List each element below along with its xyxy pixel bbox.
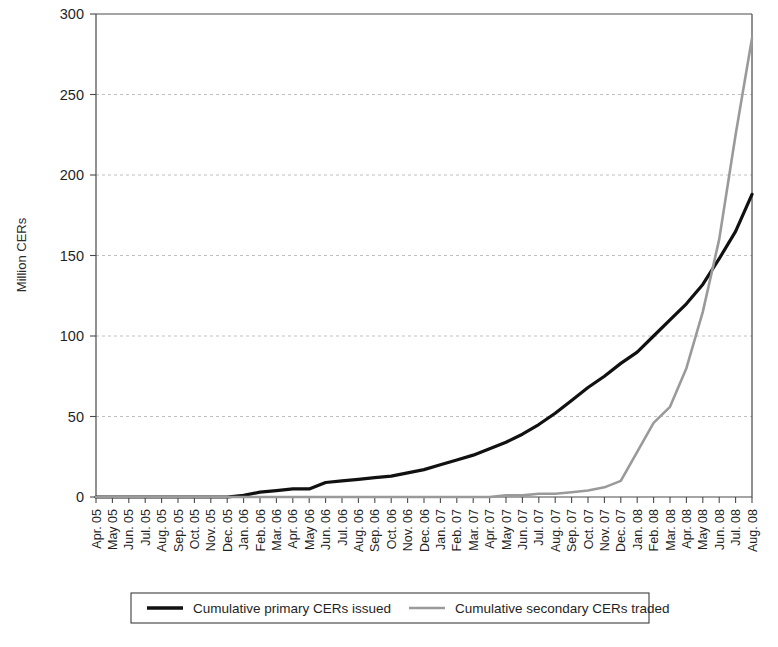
x-tick-label: Nov. 06 (401, 509, 415, 551)
series-line-primary-cers-issued (96, 194, 752, 497)
x-tick-label: Dec. 06 (418, 509, 432, 552)
x-tick-label: Mar. 07 (467, 509, 481, 551)
y-tick-label-300: 300 (60, 6, 84, 22)
x-tick-label: Apr. 05 (90, 509, 104, 549)
x-tick-label: Sep. 05 (172, 509, 186, 552)
x-tick-label: Jul. 08 (729, 509, 743, 546)
x-tick-label: Oct. 07 (582, 509, 596, 549)
x-tick-label: Oct. 06 (385, 509, 399, 549)
x-tick-label: Nov. 07 (598, 509, 612, 551)
cumulative-cers-line-chart: 050100150200250300 Apr. 05May 05Jun. 05J… (0, 0, 778, 647)
x-tick-label: Jul. 07 (532, 509, 546, 546)
x-tick-label: Apr. 06 (286, 509, 300, 549)
x-tick-label: May 05 (106, 509, 120, 550)
y-tick-label-100: 100 (60, 328, 84, 344)
data-series (96, 38, 752, 497)
series-line-secondary-cers-traded (96, 38, 752, 497)
x-tick-label: Jun. 05 (122, 509, 136, 550)
x-tick-label: Sep. 07 (565, 509, 579, 552)
x-tick-label: Feb. 07 (450, 509, 464, 551)
x-tick-label: Mar. 08 (664, 509, 678, 551)
y-tick-label-250: 250 (60, 87, 84, 103)
x-tick-label: Jun. 07 (516, 509, 530, 550)
x-tick-label: Aug. 06 (352, 509, 366, 552)
chart-container: 050100150200250300 Apr. 05May 05Jun. 05J… (0, 0, 778, 647)
y-axis-ticks: 050100150200250300 (60, 6, 96, 505)
x-tick-label: Feb. 06 (254, 509, 268, 551)
x-tick-label: Mar. 06 (270, 509, 284, 551)
x-tick-label: Apr. 08 (680, 509, 694, 549)
x-tick-label: Jan. 08 (631, 509, 645, 550)
x-tick-label: Aug. 07 (549, 509, 563, 552)
y-tick-label-0: 0 (76, 489, 84, 505)
legend-label-0: Cumulative primary CERs issued (193, 601, 391, 616)
x-tick-label: Jun. 08 (713, 509, 727, 550)
x-tick-label: Feb. 08 (647, 509, 661, 551)
x-tick-label: Jan. 07 (434, 509, 448, 550)
y-tick-label-50: 50 (68, 409, 84, 425)
x-tick-label: Oct. 05 (188, 509, 202, 549)
x-tick-label: Apr. 07 (483, 509, 497, 549)
y-tick-label-150: 150 (60, 248, 84, 264)
x-tick-label: May 07 (500, 509, 514, 550)
x-tick-label: Jan. 06 (237, 509, 251, 550)
x-tick-label: Jul. 05 (139, 509, 153, 546)
x-tick-label: May 06 (303, 509, 317, 550)
x-tick-label: Aug. 08 (746, 509, 760, 552)
gridlines (96, 95, 752, 417)
legend-label-1: Cumulative secondary CERs traded (455, 601, 670, 616)
y-tick-label-200: 200 (60, 167, 84, 183)
x-tick-label: Sep. 06 (368, 509, 382, 552)
x-axis-ticks: Apr. 05May 05Jun. 05Jul. 05Aug. 05Sep. 0… (90, 497, 760, 552)
y-axis-label: Million CERs (14, 217, 29, 292)
x-tick-label: Aug. 05 (155, 509, 169, 552)
x-tick-label: Nov. 05 (204, 509, 218, 551)
x-tick-label: Jun. 06 (319, 509, 333, 550)
x-tick-label: Dec. 05 (221, 509, 235, 552)
x-tick-label: Jul. 06 (336, 509, 350, 546)
x-tick-label: May 08 (696, 509, 710, 550)
x-tick-label: Dec. 07 (614, 509, 628, 552)
chart-legend: Cumulative primary CERs issuedCumulative… (131, 593, 670, 623)
